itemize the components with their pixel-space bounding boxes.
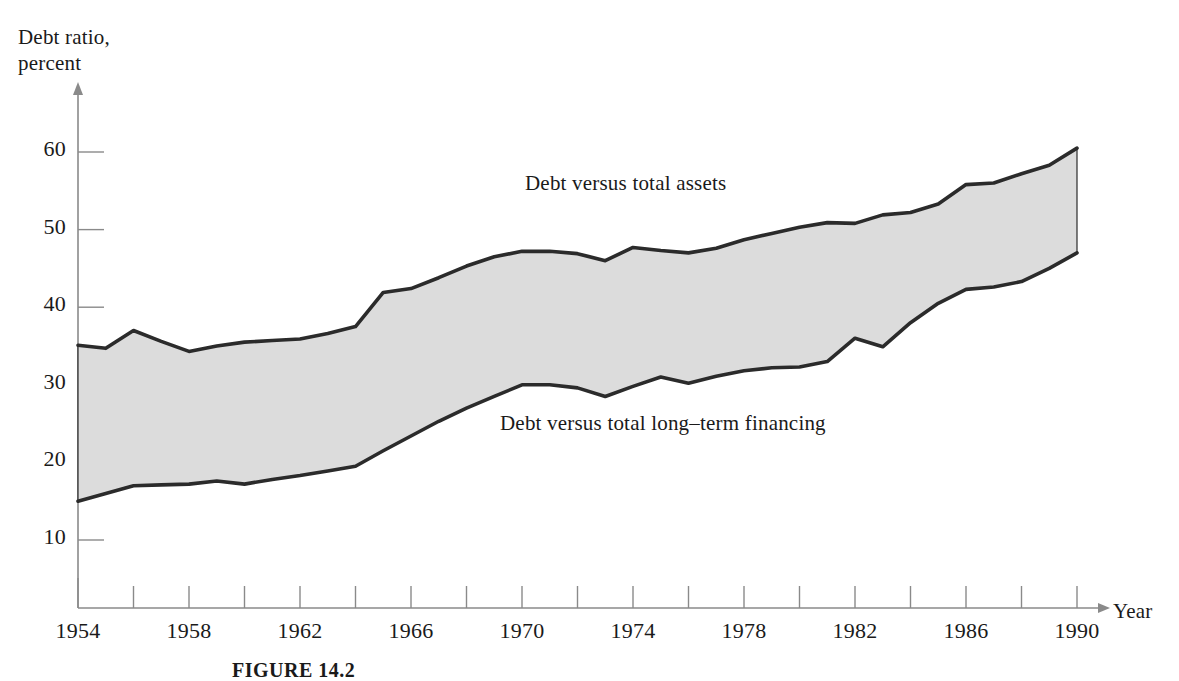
x-tick-label: 1982 bbox=[810, 618, 900, 644]
y-axis-arrowhead bbox=[73, 82, 83, 95]
series-annotation-upper: Debt versus total assets bbox=[525, 171, 726, 196]
y-tick-label: 20 bbox=[20, 446, 66, 472]
y-tick-label: 30 bbox=[20, 369, 66, 395]
y-axis-title: Debt ratio, percent bbox=[18, 24, 110, 76]
y-tick-label: 60 bbox=[20, 136, 66, 162]
y-tick-label: 50 bbox=[20, 214, 66, 240]
figure-caption: FIGURE 14.2 bbox=[232, 659, 355, 681]
area-fill-band bbox=[78, 148, 1077, 501]
x-tick-label: 1986 bbox=[921, 618, 1011, 644]
area-band-group bbox=[78, 148, 1077, 501]
x-tick-label: 1978 bbox=[699, 618, 789, 644]
series-annotation-lower: Debt versus total long–term financing bbox=[500, 411, 826, 436]
x-tick-label: 1958 bbox=[144, 618, 234, 644]
y-tick-label: 10 bbox=[20, 524, 66, 550]
x-tick-label: 1954 bbox=[33, 618, 123, 644]
y-tick-label: 40 bbox=[20, 291, 66, 317]
x-tick-label: 1974 bbox=[588, 618, 678, 644]
x-tick-label: 1962 bbox=[255, 618, 345, 644]
x-tick-label: 1966 bbox=[366, 618, 456, 644]
x-tick-label: 1970 bbox=[477, 618, 567, 644]
x-tick-label: 1990 bbox=[1032, 618, 1122, 644]
x-axis-arrowhead bbox=[1098, 603, 1110, 613]
